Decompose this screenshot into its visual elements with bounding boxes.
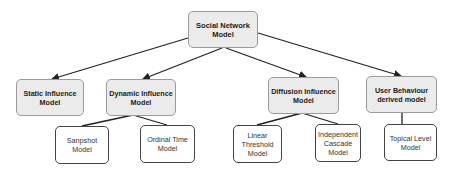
node-snapshot-model: Sanpshot Model xyxy=(55,126,109,164)
node-label: Static Influence Model xyxy=(19,89,81,107)
node-label: User Behaviour derived model xyxy=(369,86,434,104)
node-linear-threshold-model: Linear Threshold Model xyxy=(233,125,282,163)
edge-root-static xyxy=(52,38,188,79)
node-label: Diffusion Influence Model xyxy=(271,87,336,105)
edge-diffusion-linear xyxy=(257,113,302,125)
node-independent-cascade-model: Independent Cascade Model xyxy=(315,124,361,162)
edge-root-diffusion xyxy=(226,48,306,77)
edge-diffusion-indep xyxy=(302,113,338,124)
node-user-behaviour-model: User Behaviour derived model xyxy=(366,76,437,113)
node-dynamic-influence-model: Dynamic Influence Model xyxy=(106,79,176,116)
edge-root-userbeh xyxy=(258,33,401,76)
node-diffusion-influence-model: Diffusion Influence Model xyxy=(268,77,339,114)
node-label: Topical Level Model xyxy=(387,134,434,152)
node-ordinal-time-model: Ordinal Time Model xyxy=(140,125,195,163)
node-label: Social Network Model xyxy=(191,21,255,39)
edge-dynamic-ordinal xyxy=(133,115,167,125)
node-label: Linear Threshold Model xyxy=(236,131,279,158)
edge-dynamic-snapshot xyxy=(82,115,133,126)
node-label: Sanpshot Model xyxy=(58,136,106,154)
node-social-network-model: Social Network Model xyxy=(188,11,258,48)
node-label: Dynamic Influence Model xyxy=(109,89,173,107)
node-label: Independent Cascade Model xyxy=(318,130,358,157)
node-static-influence-model: Static Influence Model xyxy=(16,79,84,116)
node-topical-level-model: Topical Level Model xyxy=(384,124,437,161)
node-label: Ordinal Time Model xyxy=(143,135,192,153)
edge-root-dynamic xyxy=(143,48,222,79)
